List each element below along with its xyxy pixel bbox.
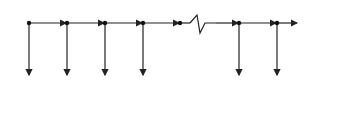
vertical-edges: [29, 23, 277, 75]
diagram-canvas: [0, 0, 342, 113]
break-zigzag: [190, 15, 216, 33]
horizontal-edges: [29, 15, 297, 33]
